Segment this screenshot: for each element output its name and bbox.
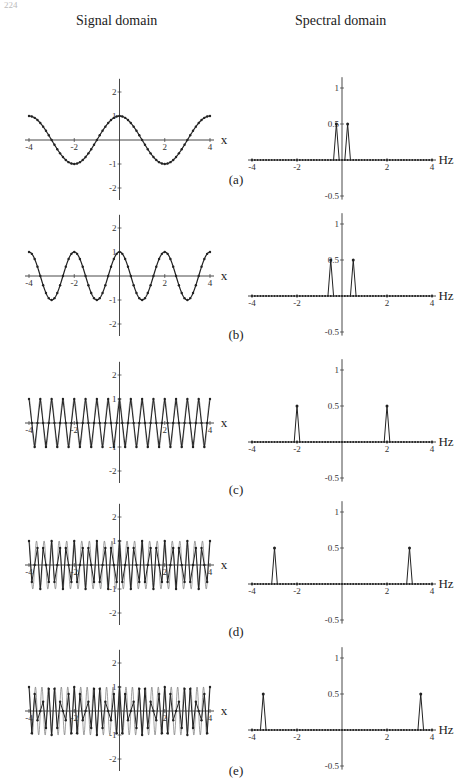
spectrum-sample [299,295,301,297]
spectrum-sample [318,441,320,443]
x-tick-label: -4 [248,298,256,308]
x-axis-label: Hz [438,152,453,167]
spectrum-sample [347,441,349,443]
spectrum-sample [375,583,377,585]
x-tick-label: -4 [248,586,256,596]
y-tick-label: 0.5 [328,543,340,553]
spectral-peak [418,694,424,730]
spectrum-sample [296,583,298,585]
sample-point [115,253,117,255]
sample-point [118,115,120,117]
spectrum-sample [428,729,430,731]
spectrum-sample [268,441,270,443]
spectrum-sample [254,729,256,731]
spectrum-sample [254,159,256,161]
sample-point [189,134,191,136]
spectrum-sample [389,159,391,161]
sample-point [76,162,78,164]
panel-caption: (c) [229,482,243,497]
sample-point [175,275,177,277]
x-tick-label: 4 [430,444,435,454]
spectrum-sample [285,729,287,731]
x-tick-label: -2 [71,278,79,288]
sample-point [121,115,123,117]
spectrum-sample [431,159,433,161]
spectrum-sample [330,159,332,161]
spectrum-sample [330,441,332,443]
sample-point [62,275,64,277]
y-tick-label: -2 [109,608,117,618]
sample-point [110,266,112,268]
spectrum-sample [282,583,284,585]
spectrum-sample [417,295,419,297]
spectrum-sample [369,729,371,731]
sample-point [84,275,86,277]
spectrum-sample [321,159,323,161]
spectrum-sample [406,729,408,731]
spectrum-sample [296,441,298,443]
spectrum-sample [335,159,337,161]
sample-point [172,159,174,161]
sample-point [115,115,117,117]
spectral-plot-d: -4-22410.5-0.5Hz [248,501,454,625]
y-tick-label: 1 [335,653,340,663]
spectral-peak [294,406,300,442]
x-tick-label: -2 [293,732,301,742]
sample-point [70,162,72,164]
spectrum-sample [425,583,427,585]
spectrum-sample [417,583,419,585]
spectrum-sample [293,583,295,585]
spectrum-sample [349,583,351,585]
sample-point [166,253,168,255]
spectrum-sample [273,295,275,297]
spectrum-sample [335,295,337,297]
spectrum-sample [428,295,430,297]
x-tick-label: -2 [293,586,301,596]
sample-point [90,148,92,150]
spectrum-sample [392,159,394,161]
y-tick-label: -0.5 [325,473,340,483]
spectrum-sample [366,729,368,731]
spectrum-sample [307,159,309,161]
sample-point [155,159,157,161]
sample-point [79,161,81,163]
spectrum-sample [273,159,275,161]
sample-point [31,115,33,117]
spectrum-sample [369,441,371,443]
x-tick-label: 2 [163,425,168,435]
sample-point [79,258,81,260]
x-axis-label: x [221,268,228,283]
sample-point [144,297,146,299]
sample-point [93,297,95,299]
sample-point [33,258,35,260]
spectrum-sample [344,295,346,297]
spectral-peak [384,406,390,442]
x-tick-label: -2 [71,142,79,152]
spectrum-sample [380,729,382,731]
peak-point [273,547,276,550]
spectrum-sample [400,729,402,731]
x-tick-label: -4 [25,713,33,723]
spectrum-sample [302,583,304,585]
spectrum-sample [330,729,332,731]
sample-point [141,299,143,301]
y-tick-label: 1 [335,219,340,229]
spectrum-sample [366,159,368,161]
y-tick-label: 2 [112,87,117,97]
sample-point [73,163,75,165]
spectrum-sample [259,441,261,443]
spectrum-sample [380,295,382,297]
spectrum-sample [287,729,289,731]
sample-point [130,275,132,277]
spectrum-sample [316,441,318,443]
spectrum-sample [279,583,281,585]
spectrum-sample [369,295,371,297]
sample-point [186,299,188,301]
spectrum-sample [310,441,312,443]
panel-caption: (e) [229,763,243,778]
spectrum-sample [352,441,354,443]
spectrum-sample [406,295,408,297]
sample-point [144,143,146,145]
x-tick-label: 2 [163,278,168,288]
x-tick-label: -2 [293,298,301,308]
